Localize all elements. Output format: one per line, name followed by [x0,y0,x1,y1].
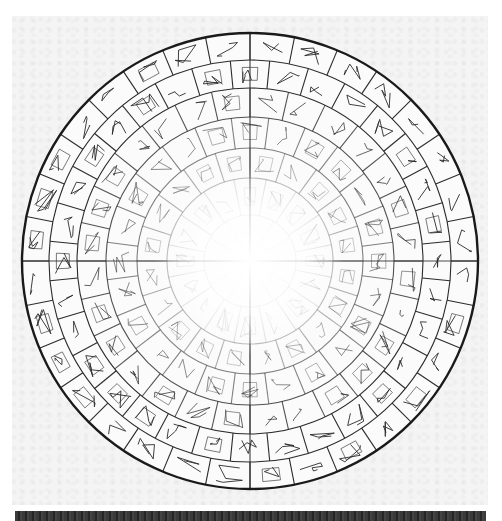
bottom-dark-strip [15,511,486,521]
center-glow [155,166,345,356]
glyph-wheel [0,0,502,521]
